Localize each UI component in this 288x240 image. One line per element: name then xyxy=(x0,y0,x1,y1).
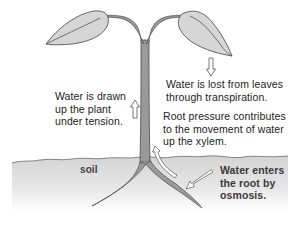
transpiration-label: Water is lost from leaves through transp… xyxy=(166,78,283,103)
soil-label: soil xyxy=(80,164,98,177)
osmosis-label: Water enters the root by osmosis. xyxy=(220,164,284,202)
stem xyxy=(140,40,150,162)
transpiration-arrow xyxy=(207,58,216,76)
tension-label: Water is drawn up the plant under tensio… xyxy=(55,90,126,128)
tension-arrow xyxy=(131,100,140,118)
root-pressure-label: Root pressure contributes to the movemen… xyxy=(163,110,286,148)
